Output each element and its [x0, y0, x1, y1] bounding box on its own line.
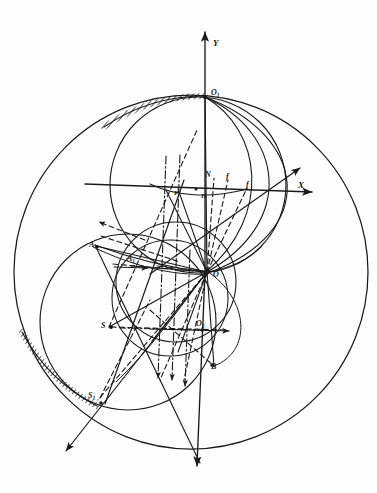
ray-o-up-left [166, 190, 207, 272]
geometric-figure: Y X O1 O O2 N H P A A1 S S1 B f f [0, 0, 377, 493]
ray-o-to-s [109, 272, 207, 327]
hatched-arc-bottom-edge [22, 332, 97, 406]
dashed-ray-s-to-o1 [109, 130, 197, 327]
label-point-s1: S1 [88, 391, 95, 401]
dot-o1 [203, 95, 207, 99]
dashed-ray-o-n [207, 178, 214, 272]
outer-circle [14, 95, 368, 449]
label-point-p: P [174, 189, 179, 197]
label-point-o1: O1 [211, 88, 220, 98]
dot-s1 [99, 401, 103, 405]
label-point-a: A [88, 240, 95, 249]
dot-o [205, 270, 210, 275]
dot-h [195, 188, 198, 191]
label-point-o: O [213, 270, 219, 279]
label-point-h: H [200, 192, 207, 200]
hatched-arc-bottom [22, 332, 97, 406]
dot-s [109, 325, 113, 329]
x-axis [85, 184, 312, 192]
hatched-arc-top [104, 96, 205, 127]
arc-o1-to-o-inner [205, 97, 252, 271]
label-point-a1: A1 [126, 254, 135, 264]
diagram-root: Y X O1 O O2 N H P A A1 S S1 B f f [0, 0, 377, 493]
dot-a [95, 245, 99, 249]
dot-b [210, 363, 214, 367]
arc-o1-to-o-mid [205, 97, 269, 272]
label-y-axis: Y [213, 38, 220, 48]
label-point-n: N [204, 170, 212, 179]
dot-o2 [200, 328, 203, 331]
label-point-s: S [101, 321, 106, 330]
label-x-axis: X [297, 180, 305, 190]
label-f1: f [226, 172, 230, 181]
label-f2: f [246, 180, 250, 189]
ray-o-up-p [178, 189, 207, 272]
dashed-ray-o-s1 [98, 272, 207, 400]
